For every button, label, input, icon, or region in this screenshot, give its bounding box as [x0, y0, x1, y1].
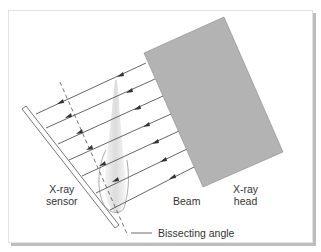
beam-label: Beam	[173, 195, 200, 207]
bisecting-angle-diagram	[0, 0, 321, 252]
tooth-shape	[99, 80, 129, 213]
xray-sensor-label: X-ray sensor	[46, 183, 78, 207]
xray-head-label: X-ray head	[233, 183, 258, 207]
xray-head	[144, 17, 283, 187]
xray-sensor-plate	[22, 106, 119, 228]
bisecting-angle-label: Bissecting angle	[158, 227, 234, 239]
